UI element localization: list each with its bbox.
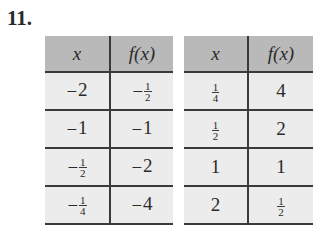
- denominator: 2: [79, 168, 87, 178]
- numerator: 1: [277, 196, 285, 207]
- value-table-right: x f(x) 14412211212: [184, 36, 313, 225]
- cell-x: −1: [45, 110, 110, 148]
- cell-x: 2: [184, 186, 248, 224]
- value: 4: [143, 193, 153, 214]
- cell-x: −14: [45, 186, 110, 224]
- cell-fx: −1: [110, 110, 173, 148]
- cell-x: 14: [184, 72, 248, 110]
- cell-fx: 4: [248, 72, 313, 110]
- cell-x: −12: [45, 148, 110, 186]
- table-row: 11: [184, 148, 313, 186]
- fraction: 14: [79, 195, 87, 216]
- problem-number: 11.: [7, 6, 32, 31]
- value: 1: [211, 156, 221, 177]
- minus-sign: −: [67, 157, 78, 178]
- value: 1: [276, 156, 286, 177]
- minus-sign: −: [131, 119, 142, 140]
- header-x: x: [45, 36, 110, 72]
- header-fx: f(x): [248, 36, 313, 72]
- fraction: 14: [212, 82, 220, 103]
- cell-x: 12: [184, 110, 248, 148]
- table-row: −1−1: [45, 110, 173, 148]
- value: 2: [143, 155, 153, 176]
- minus-sign: −: [66, 119, 77, 140]
- fraction: 12: [79, 157, 87, 178]
- table-row: 122: [184, 110, 313, 148]
- value: 1: [143, 117, 153, 138]
- value-table-left: x f(x) −2−12−1−1−12−2−14−4: [45, 36, 173, 225]
- header-x: x: [184, 36, 248, 72]
- cell-fx: −12: [110, 72, 173, 110]
- minus-sign: −: [66, 81, 77, 102]
- cell-fx: −4: [110, 186, 173, 224]
- table-row: −14−4: [45, 186, 173, 224]
- table-row: 212: [184, 186, 313, 224]
- cell-fx: 1: [248, 148, 313, 186]
- cell-x: −2: [45, 72, 110, 110]
- numerator: 1: [212, 82, 220, 93]
- fraction: 12: [144, 81, 152, 102]
- cell-fx: −2: [110, 148, 173, 186]
- cell-fx: 12: [248, 186, 313, 224]
- table-row: 144: [184, 72, 313, 110]
- minus-sign: −: [132, 81, 143, 102]
- table-row: −12−2: [45, 148, 173, 186]
- denominator: 4: [212, 93, 220, 103]
- value: 4: [276, 80, 286, 101]
- fraction: 12: [277, 196, 285, 217]
- denominator: 4: [79, 206, 87, 216]
- value: 2: [211, 194, 221, 215]
- fraction: 12: [212, 120, 220, 141]
- value: 2: [276, 118, 286, 139]
- value: 1: [78, 117, 88, 138]
- cell-fx: 2: [248, 110, 313, 148]
- denominator: 2: [212, 131, 220, 141]
- minus-sign: −: [131, 157, 142, 178]
- header-fx: f(x): [110, 36, 173, 72]
- minus-sign: −: [131, 195, 142, 216]
- denominator: 2: [144, 92, 152, 102]
- numerator: 1: [212, 120, 220, 131]
- denominator: 2: [277, 207, 285, 217]
- minus-sign: −: [67, 195, 78, 216]
- value: 2: [78, 79, 88, 100]
- table-row: −2−12: [45, 72, 173, 110]
- cell-x: 1: [184, 148, 248, 186]
